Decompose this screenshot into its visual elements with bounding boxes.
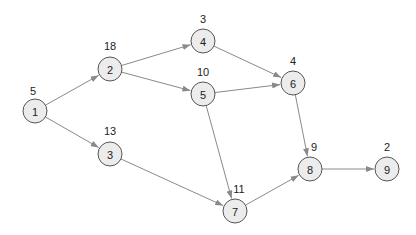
node-weight-label: 2 <box>384 141 390 153</box>
node-5: 510 <box>191 66 215 106</box>
node-weight-label: 3 <box>200 13 206 25</box>
edge-3-to-7 <box>121 159 223 206</box>
edge-1-to-2 <box>45 75 98 105</box>
node-label: 1 <box>32 106 38 118</box>
edge-4-to-6 <box>214 46 281 77</box>
node-3: 313 <box>98 125 122 166</box>
node-label: 4 <box>200 36 206 48</box>
edge-2-to-5 <box>122 72 191 91</box>
node-label: 6 <box>290 78 296 90</box>
node-label: 7 <box>232 206 238 218</box>
node-6: 64 <box>281 55 305 95</box>
node-7: 711 <box>223 183 247 223</box>
node-1: 15 <box>23 85 47 123</box>
edge-7-to-8 <box>245 175 298 205</box>
edge-6-to-8 <box>295 95 307 156</box>
node-label: 5 <box>200 89 206 101</box>
edge-5-to-6 <box>215 85 280 93</box>
node-label: 2 <box>107 64 113 76</box>
node-4: 43 <box>191 13 215 53</box>
node-label: 3 <box>107 149 113 161</box>
edges-layer <box>45 45 374 206</box>
node-weight-label: 9 <box>311 141 317 153</box>
node-label: 8 <box>307 164 313 176</box>
node-weight-label: 11 <box>233 183 244 195</box>
edge-2-to-4 <box>121 45 190 66</box>
node-2: 218 <box>98 40 122 81</box>
node-8: 89 <box>298 141 322 181</box>
node-weight-label: 10 <box>197 66 209 78</box>
edge-5-to-7 <box>206 106 231 199</box>
node-weight-label: 18 <box>104 40 116 52</box>
network-diagram: 1521831343510647118992 <box>0 0 416 235</box>
node-label: 9 <box>384 164 390 176</box>
node-weight-label: 13 <box>104 125 116 137</box>
edge-1-to-3 <box>45 117 98 148</box>
node-weight-label: 4 <box>290 55 296 67</box>
node-9: 92 <box>375 141 399 181</box>
nodes-layer: 1521831343510647118992 <box>23 13 399 223</box>
node-weight-label: 5 <box>30 85 36 97</box>
